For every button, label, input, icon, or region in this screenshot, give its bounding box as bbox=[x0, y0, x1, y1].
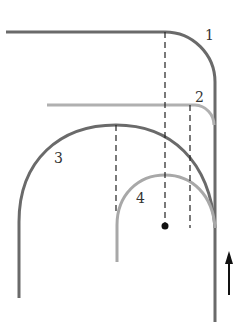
label-2: 2 bbox=[195, 89, 204, 105]
arrow-up-icon bbox=[225, 251, 233, 295]
curve-4 bbox=[117, 175, 215, 262]
label-1: 1 bbox=[205, 27, 214, 43]
curve-2 bbox=[47, 105, 214, 125]
label-4: 4 bbox=[136, 190, 145, 206]
trajectory-diagram: 1 2 3 4 bbox=[0, 0, 248, 322]
center-point bbox=[162, 223, 169, 230]
label-3: 3 bbox=[54, 150, 63, 166]
